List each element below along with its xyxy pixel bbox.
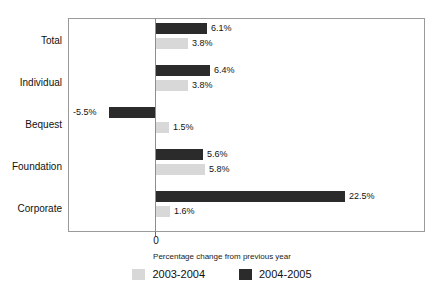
legend-swatch-icon-2003-2004: [132, 269, 145, 280]
legend-swatch-icon-2004-2005: [239, 269, 252, 280]
x-axis-tick-label-0: 0: [148, 235, 164, 247]
bar-value-total-2004-2005: 6.1%: [211, 23, 232, 34]
legend-item-2003-2004: 2003-2004: [132, 268, 205, 281]
bar-value-corporate-2004-2005: 22.5%: [349, 191, 375, 202]
bar-corporate-2004-2005: [156, 191, 345, 202]
bar-total-2004-2005: [156, 23, 207, 34]
bar-value-bequest-2003-2004: 1.5%: [173, 122, 194, 133]
legend-label-2003-2004: 2003-2004: [152, 268, 205, 281]
category-label-corporate: Corporate: [0, 203, 62, 215]
bar-value-foundation-2003-2004: 5.8%: [209, 164, 230, 175]
bar-value-individual-2004-2005: 6.4%: [214, 65, 235, 76]
legend-label-2004-2005: 2004-2005: [259, 268, 312, 281]
x-axis-caption: Percentage change from previous year: [0, 252, 444, 262]
bar-foundation-2003-2004: [156, 164, 205, 175]
legend-item-2004-2005: 2004-2005: [239, 268, 312, 281]
bar-chart: 0 Total Individual Bequest Foundation Co…: [0, 0, 444, 300]
bar-value-corporate-2003-2004: 1.6%: [174, 206, 195, 217]
bar-value-foundation-2004-2005: 5.6%: [207, 149, 228, 160]
bar-individual-2003-2004: [156, 80, 188, 91]
bar-total-2003-2004: [156, 38, 188, 49]
bar-value-bequest-2004-2005: -5.5%: [73, 107, 97, 118]
category-label-foundation: Foundation: [0, 161, 62, 173]
bar-corporate-2003-2004: [156, 206, 170, 217]
category-label-individual: Individual: [0, 77, 62, 89]
bar-value-total-2003-2004: 3.8%: [192, 38, 213, 49]
bar-bequest-2003-2004: [156, 122, 169, 133]
bar-individual-2004-2005: [156, 65, 210, 76]
bar-foundation-2004-2005: [156, 149, 203, 160]
bar-value-individual-2003-2004: 3.8%: [192, 80, 213, 91]
chart-legend: 2003-2004 2004-2005: [0, 268, 444, 281]
category-label-bequest: Bequest: [0, 119, 62, 131]
bar-bequest-2004-2005: [109, 107, 155, 118]
category-label-total: Total: [0, 35, 62, 47]
